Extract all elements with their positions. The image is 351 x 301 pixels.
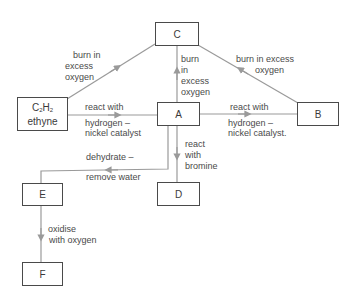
node-c: C	[155, 22, 199, 46]
label-a-to-c-4: oxygen	[181, 87, 210, 98]
label-a-to-c-3: excess	[181, 76, 209, 87]
label-a-to-b-bottom-2: nickel catalyst.	[228, 128, 287, 139]
label-a-to-e-top: dehydrate –	[86, 152, 134, 163]
ethyne-formula: C2H2	[32, 102, 53, 116]
node-f: F	[22, 262, 63, 286]
label-a-to-d-3: bromine	[185, 161, 218, 172]
node-e-label: E	[39, 189, 46, 200]
label-a-to-c-2: in	[181, 65, 188, 76]
node-a: A	[157, 102, 200, 126]
node-d-label: D	[175, 189, 182, 200]
label-ethyne-to-a-top: react with	[85, 102, 124, 113]
label-a-to-d-1: react	[185, 139, 205, 150]
label-ethyne-to-a-bottom-2: nickel catalyst	[85, 128, 141, 139]
node-c-label: C	[173, 29, 180, 40]
node-b: B	[297, 102, 339, 126]
ethyne-name: ethyne	[27, 116, 57, 127]
label-a-to-e-bottom: remove water	[86, 172, 141, 183]
label-c-to-b-2: oxygen	[255, 65, 284, 76]
label-a-to-b-top: react with	[230, 102, 269, 113]
node-d: D	[157, 182, 200, 206]
node-b-label: B	[315, 109, 322, 120]
label-ethyne-to-c-3: oxygen	[65, 72, 94, 83]
label-ethyne-to-c-1: burn in	[73, 50, 101, 61]
label-e-to-f-1: oxidise	[48, 224, 76, 235]
label-a-to-d-2: with	[185, 150, 201, 161]
label-c-to-b-1: burn in excess	[236, 54, 294, 65]
label-a-to-c-1: burn	[181, 54, 199, 65]
node-a-label: A	[175, 109, 182, 120]
node-f-label: F	[39, 269, 45, 280]
node-ethyne: C2H2 ethyne	[17, 97, 68, 131]
node-e: E	[22, 183, 63, 206]
label-e-to-f-2: with oxygen	[49, 235, 97, 246]
label-ethyne-to-c-2: excess	[65, 61, 93, 72]
